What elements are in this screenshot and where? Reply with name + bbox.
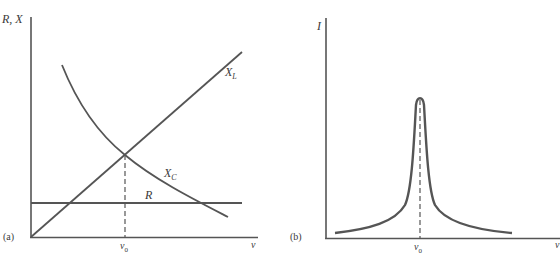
panel-b-y-label: I bbox=[316, 19, 322, 33]
panel-a-tag: (a) bbox=[3, 231, 14, 243]
panel-a-y-label: R, X bbox=[1, 12, 23, 26]
panel-a-nu0-label: ν0 bbox=[120, 240, 128, 254]
panel-a: R, X (a) ν ν0 XL XC R bbox=[1, 12, 258, 254]
current-resonance-curve bbox=[335, 98, 512, 233]
panel-b-nu0-label: ν0 bbox=[414, 241, 422, 255]
panel-b: I (b) ν ν0 bbox=[290, 18, 560, 255]
panel-b-x-label: ν bbox=[555, 239, 560, 250]
xl-label: XL bbox=[224, 65, 237, 81]
panel-a-x-label: ν bbox=[251, 239, 256, 250]
panel-b-tag: (b) bbox=[290, 231, 302, 243]
xc-label: XC bbox=[163, 166, 177, 182]
r-label: R bbox=[144, 188, 153, 202]
xl-line bbox=[31, 52, 242, 237]
resonance-figure: R, X (a) ν ν0 XL XC R I (b) ν ν0 bbox=[0, 0, 560, 257]
